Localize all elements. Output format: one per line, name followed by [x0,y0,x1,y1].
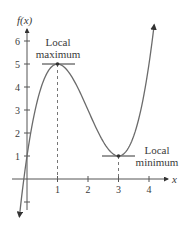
y-tick-label: 6 [15,36,20,47]
local-min-label-line1: Local [144,144,169,156]
ticks: 1234123456 [15,36,152,203]
x-tick-label: 1 [55,184,60,195]
y-tick-label: 3 [15,105,20,116]
y-tick-label: 5 [15,59,20,70]
x-tick-label: 4 [147,184,152,195]
y-tick-label: 1 [15,151,20,162]
x-tick-label: 2 [86,184,91,195]
y-tick-label: 4 [15,82,20,93]
y-axis-title: f(x) [17,14,33,27]
y-tick-label: 2 [15,128,20,139]
x-tick-label: 3 [116,184,121,195]
x-axis-title: x [171,173,177,185]
local-max-label-line2: maximum [36,48,81,60]
local-min-point [117,154,121,158]
chart: f(x) x 1234123456 Local maximum Local mi… [0,0,186,228]
local-max-label-line1: Local [45,36,70,48]
local-max-point [56,62,60,66]
local-min-label-line2: minimum [136,156,179,168]
